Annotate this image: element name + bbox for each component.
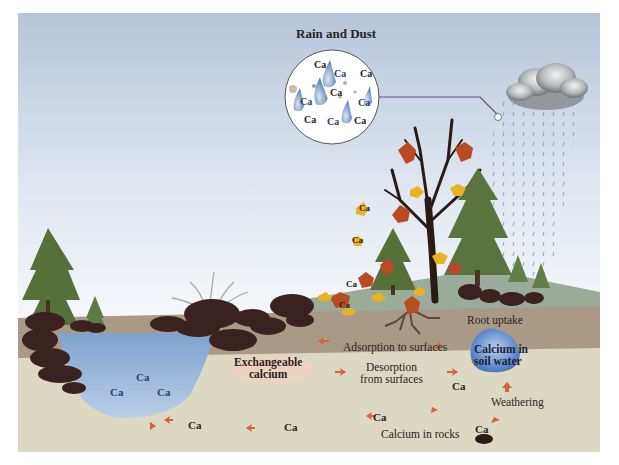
label-exchangeable-line1: Exchangeable (234, 356, 302, 368)
inset-ca: Ca (334, 69, 346, 80)
inset-ca: Ca (327, 117, 339, 128)
inset-ca: Ca (314, 60, 326, 71)
label-adsorption: Adsorption to surfaces (343, 341, 447, 353)
inset-ca: Ca (360, 69, 372, 80)
soil-ca: Ca (452, 381, 465, 393)
inset-title: Rain and Dust (296, 27, 376, 41)
soil-ca: Ca (284, 422, 297, 434)
inset-ca: Ca (304, 115, 316, 126)
label-soil-water-line1: Calcium in (474, 343, 528, 355)
label-soil-water-line2: soil water (474, 355, 528, 367)
inset-ca: Ca (300, 97, 312, 108)
lake-ca: Ca (157, 387, 170, 399)
inset-ca: Ca (358, 98, 370, 109)
label-weathering: Weathering (491, 396, 544, 408)
label-calcium-in-rocks: Calcium in rocks (381, 428, 460, 440)
label-root-uptake: Root uptake (467, 314, 523, 326)
leaf-ca: Ca (339, 301, 350, 310)
soil-ca: Ca (373, 412, 386, 424)
label-exchangeable-calcium: Exchangeable calcium (234, 356, 302, 380)
leaf-ca: Ca (359, 204, 370, 213)
label-desorption-line2: from surfaces (360, 373, 423, 385)
label-desorption: Desorption from surfaces (360, 361, 423, 385)
rock-ca: Ca (475, 424, 488, 436)
leaf-ca: Ca (346, 280, 357, 289)
inset-ca: Ca (330, 88, 342, 99)
lake-ca: Ca (110, 387, 123, 399)
label-exchangeable-line2: calcium (234, 368, 302, 380)
inset-ca: Ca (354, 116, 366, 127)
soil-ca: Ca (188, 420, 201, 432)
label-soil-water: Calcium in soil water (474, 343, 528, 367)
calcium-cycle-diagram: Rain and Dust Ca Ca Ca Ca Ca Ca Ca Ca Ca… (0, 0, 619, 465)
leaf-ca: Ca (352, 236, 363, 245)
label-desorption-line1: Desorption (360, 361, 423, 373)
lake-ca: Ca (136, 372, 149, 384)
